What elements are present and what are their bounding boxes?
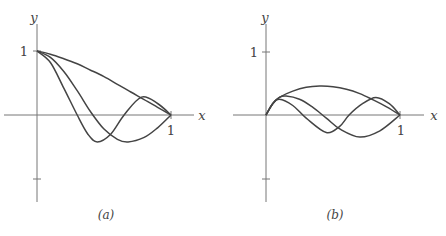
panel-caption: (a) [98, 208, 115, 222]
y-tick-label-1: 1 [20, 44, 28, 59]
panel-b: y x 1 1 (b) [233, 10, 438, 222]
curves [37, 51, 171, 142]
x-axis-label: x [430, 108, 438, 123]
y-axis-label: y [29, 10, 38, 25]
panel-caption: (b) [326, 208, 343, 222]
y-axis-label: y [260, 10, 269, 25]
y-tick-label-1: 1 [250, 45, 258, 60]
series-curve-1 [37, 51, 171, 115]
x-axis-label: x [198, 108, 206, 123]
panel-a: y x 1 1 (a) [4, 10, 206, 222]
x-tick-label-1: 1 [167, 123, 175, 138]
x-tick-label-1: 1 [397, 123, 405, 138]
series-curve-2 [37, 51, 171, 142]
curves [266, 86, 400, 137]
series-curve-1 [266, 86, 400, 115]
figure: y x 1 1 (a) y x 1 1 (b) [0, 0, 446, 236]
